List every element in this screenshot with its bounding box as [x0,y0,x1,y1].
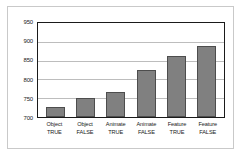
bar-slot [101,23,131,117]
bar-slot [70,23,100,117]
bar-feature-true[interactable] [167,56,186,117]
x-category-animate-false: Animate FALSE [131,121,162,145]
bar-chart-figure: 950 900 850 800 750 700 [0,0,248,161]
bar-slot [131,23,161,117]
plot-area [37,22,225,118]
bar-slot [161,23,191,117]
x-category-object-true: Object TRUE [39,121,70,145]
bar-feature-false[interactable] [197,46,216,117]
x-category-object-false: Object FALSE [70,121,101,145]
y-tick-label: 850 [24,57,33,63]
x-category-animate-true: Animate TRUE [100,121,131,145]
y-tick-label: 750 [24,96,33,102]
x-category-line2: TRUE [39,129,70,137]
bar-animate-false[interactable] [137,70,156,117]
bar-animate-true[interactable] [106,92,125,117]
y-tick-label: 900 [24,38,33,44]
bar-object-true[interactable] [46,107,65,117]
x-category-line1: Object [70,121,101,129]
bar-slot [192,23,222,117]
x-category-line1: Animate [100,121,131,129]
x-category-line1: Animate [131,121,162,129]
x-axis-category-labels: Object TRUE Object FALSE Animate TRUE An… [37,121,225,145]
x-category-line2: TRUE [100,129,131,137]
bar-slot [40,23,70,117]
y-tick-label: 800 [24,77,33,83]
x-category-feature-true: Feature TRUE [162,121,193,145]
bars-layer [38,23,224,117]
x-category-line2: FALSE [131,129,162,137]
y-tick-label: 950 [24,19,33,25]
x-category-line2: FALSE [192,129,223,137]
x-category-line1: Feature [162,121,193,129]
y-axis-tick-labels: 950 900 850 800 750 700 [9,22,35,118]
x-category-line1: Feature [192,121,223,129]
x-category-feature-false: Feature FALSE [192,121,223,145]
x-category-line2: FALSE [70,129,101,137]
bar-object-false[interactable] [76,98,95,117]
y-tick-label: 700 [24,115,33,121]
x-category-line1: Object [39,121,70,129]
x-category-line2: TRUE [162,129,193,137]
